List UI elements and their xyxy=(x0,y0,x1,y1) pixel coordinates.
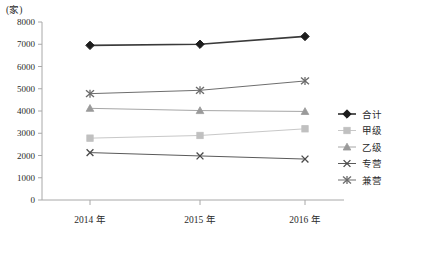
y-axis-tick-label: 4000 xyxy=(17,106,36,116)
line-chart: (家) 010002000300040005000600070008000201… xyxy=(0,0,425,256)
y-axis-tick-label: 3000 xyxy=(17,128,36,138)
x-axis-tick-label: 2015 年 xyxy=(184,214,215,225)
y-axis-tick-label: 6000 xyxy=(17,62,36,72)
series-专营 xyxy=(87,149,309,162)
legend-item-乙级[interactable]: 乙级 xyxy=(338,142,382,153)
data-point xyxy=(197,132,203,138)
legend-item-甲级[interactable]: 甲级 xyxy=(338,125,382,136)
legend-marker xyxy=(344,127,350,133)
legend-label: 兼营 xyxy=(362,175,382,186)
data-point xyxy=(87,135,93,141)
legend-item-专营[interactable]: 专营 xyxy=(338,158,382,169)
data-point xyxy=(86,41,94,49)
series-合计 xyxy=(86,32,309,49)
series-乙级 xyxy=(86,105,309,115)
series-兼营 xyxy=(86,77,309,98)
chart-legend: 合计甲级乙级专营兼营 xyxy=(338,109,382,186)
y-axis-tick-label: 2000 xyxy=(17,151,36,161)
legend-label: 专营 xyxy=(362,158,382,169)
y-axis-tick-label: 8000 xyxy=(17,17,36,27)
legend-label: 乙级 xyxy=(362,142,382,153)
legend-label: 合计 xyxy=(362,109,382,120)
x-axis-tick-label: 2014 年 xyxy=(74,214,105,225)
chart-canvas: 0100020003000400050006000700080002014 年2… xyxy=(0,0,425,256)
y-axis-tick-label: 1000 xyxy=(17,173,36,183)
data-point xyxy=(196,40,204,48)
legend-label: 甲级 xyxy=(362,125,382,136)
series-甲级 xyxy=(87,126,308,142)
data-point xyxy=(302,126,308,132)
y-axis-tick-label: 7000 xyxy=(17,39,36,49)
legend-item-兼营[interactable]: 兼营 xyxy=(338,175,382,186)
legend-item-合计[interactable]: 合计 xyxy=(338,109,382,120)
legend-marker xyxy=(343,110,351,118)
y-axis-tick-label: 5000 xyxy=(17,84,36,94)
data-point xyxy=(301,32,309,40)
x-axis-tick-label: 2016 年 xyxy=(289,214,320,225)
y-axis-tick-label: 0 xyxy=(31,195,36,205)
